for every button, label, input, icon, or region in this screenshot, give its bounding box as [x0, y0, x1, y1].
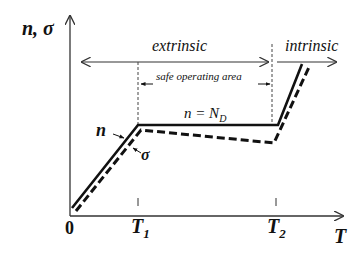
n-label-pointer [113, 134, 124, 138]
sigma-label-pointer [133, 148, 141, 153]
plateau-label: n = ND [184, 105, 227, 124]
x-axis-label: T [334, 225, 347, 247]
extrinsic-label: extrinsic [152, 37, 207, 54]
y-axis-label: n, σ [22, 17, 55, 39]
safe-area-label: safe operating area [156, 70, 242, 82]
tick-label-t1: T1 [131, 215, 150, 241]
intrinsic-label: intrinsic [285, 37, 338, 54]
tick-label-t2: T2 [267, 215, 286, 241]
diagram-canvas: n, σ T 0 T1 T2 extrinsic intrinsic safe … [0, 0, 362, 255]
n-curve-label: n [96, 120, 106, 140]
sigma-curve [76, 65, 310, 211]
origin-label: 0 [65, 218, 74, 238]
sigma-curve-label: σ [141, 146, 150, 163]
